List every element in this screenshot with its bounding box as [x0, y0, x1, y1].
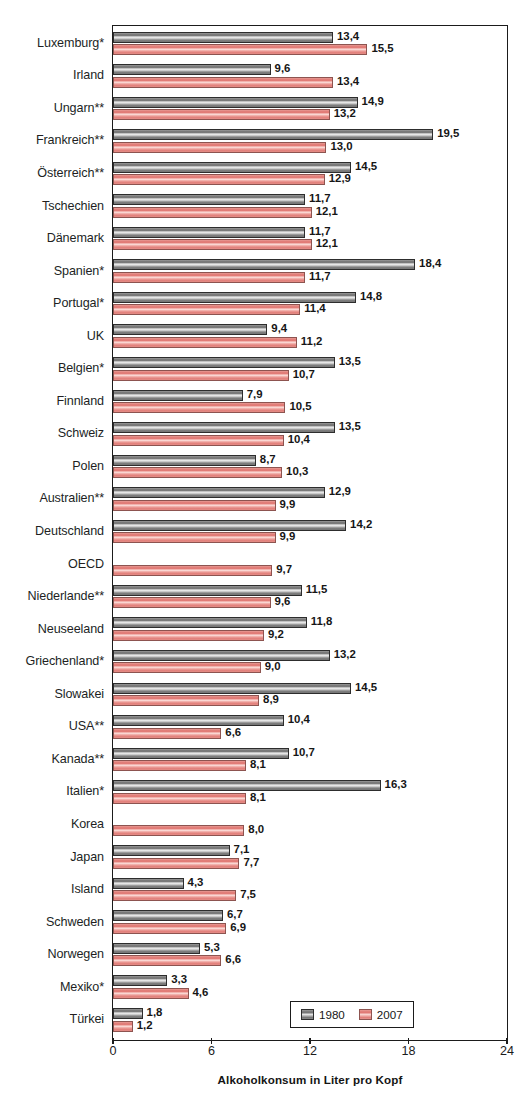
bar-series-1980[interactable]: 13,4	[113, 32, 507, 43]
bar-1980[interactable]	[113, 585, 302, 596]
bar-series-2007[interactable]: 12,1	[113, 207, 507, 218]
bar-2007[interactable]	[113, 77, 333, 88]
bar-series-2007[interactable]: 11,4	[113, 304, 507, 315]
bar-series-1980[interactable]: 8,7	[113, 455, 507, 466]
bar-series-1980[interactable]: 9,4	[113, 324, 507, 335]
bar-series-1980[interactable]: 7,9	[113, 390, 507, 401]
bar-series-2007[interactable]: 10,3	[113, 467, 507, 478]
bar-series-1980[interactable]: 4,3	[113, 878, 507, 889]
bar-2007[interactable]	[113, 597, 271, 608]
bar-series-2007[interactable]: 13,0	[113, 142, 507, 153]
bar-series-1980[interactable]: 11,5	[113, 585, 507, 596]
bar-series-1980[interactable]: 14,2	[113, 520, 507, 531]
bar-1980[interactable]	[113, 292, 356, 303]
bar-2007[interactable]	[113, 272, 305, 283]
bar-series-1980[interactable]: 11,7	[113, 227, 507, 238]
bar-2007[interactable]	[113, 988, 189, 999]
bar-series-2007[interactable]: 10,7	[113, 370, 507, 381]
bar-2007[interactable]	[113, 174, 325, 185]
bar-series-1980[interactable]: 14,8	[113, 292, 507, 303]
bar-2007[interactable]	[113, 532, 276, 543]
bar-2007[interactable]	[113, 500, 276, 511]
bar-1980[interactable]	[113, 357, 335, 368]
bar-1980[interactable]	[113, 259, 415, 270]
bar-series-1980[interactable]: 13,2	[113, 650, 507, 661]
bar-series-1980[interactable]: 13,5	[113, 422, 507, 433]
bar-2007[interactable]	[113, 728, 221, 739]
bar-1980[interactable]	[113, 715, 284, 726]
bar-1980[interactable]	[113, 878, 184, 889]
bar-1980[interactable]	[113, 910, 223, 921]
bar-2007[interactable]	[113, 337, 297, 348]
bar-series-2007[interactable]: 10,5	[113, 402, 507, 413]
bar-1980[interactable]	[113, 194, 305, 205]
bar-1980[interactable]	[113, 227, 305, 238]
bar-1980[interactable]	[113, 64, 271, 75]
bar-1980[interactable]	[113, 975, 167, 986]
bar-2007[interactable]	[113, 44, 367, 55]
bar-1980[interactable]	[113, 324, 267, 335]
bar-series-2007[interactable]: 11,2	[113, 337, 507, 348]
bar-series-1980[interactable]	[113, 813, 507, 824]
bar-series-1980[interactable]: 11,7	[113, 194, 507, 205]
bar-series-1980[interactable]: 19,5	[113, 129, 507, 140]
bar-1980[interactable]	[113, 32, 333, 43]
bar-1980[interactable]	[113, 162, 351, 173]
bar-2007[interactable]	[113, 630, 264, 641]
bar-series-2007[interactable]: 8,0	[113, 825, 507, 836]
bar-2007[interactable]	[113, 207, 312, 218]
bar-2007[interactable]	[113, 923, 226, 934]
bar-series-1980[interactable]: 14,9	[113, 97, 507, 108]
bar-2007[interactable]	[113, 239, 312, 250]
bar-2007[interactable]	[113, 1021, 133, 1032]
bar-2007[interactable]	[113, 793, 246, 804]
bar-1980[interactable]	[113, 455, 256, 466]
bar-1980[interactable]	[113, 748, 289, 759]
bar-2007[interactable]	[113, 695, 259, 706]
bar-series-2007[interactable]: 10,4	[113, 435, 507, 446]
bar-series-2007[interactable]: 12,9	[113, 174, 507, 185]
legend-entry-2007[interactable]: 2007	[359, 1008, 403, 1021]
bar-series-1980[interactable]	[113, 552, 507, 563]
bar-2007[interactable]	[113, 825, 244, 836]
bar-1980[interactable]	[113, 683, 351, 694]
bar-1980[interactable]	[113, 390, 243, 401]
bar-1980[interactable]	[113, 520, 346, 531]
bar-series-2007[interactable]: 11,7	[113, 272, 507, 283]
bar-2007[interactable]	[113, 304, 300, 315]
bar-series-2007[interactable]: 6,6	[113, 728, 507, 739]
bar-series-2007[interactable]: 7,7	[113, 858, 507, 869]
bar-2007[interactable]	[113, 109, 330, 120]
bar-1980[interactable]	[113, 943, 200, 954]
bar-series-2007[interactable]: 13,4	[113, 77, 507, 88]
legend-entry-1980[interactable]: 1980	[301, 1008, 345, 1021]
bar-series-2007[interactable]: 15,5	[113, 44, 507, 55]
bar-series-1980[interactable]: 10,7	[113, 748, 507, 759]
bar-series-1980[interactable]: 14,5	[113, 683, 507, 694]
bar-2007[interactable]	[113, 565, 272, 576]
bar-1980[interactable]	[113, 650, 330, 661]
bar-1980[interactable]	[113, 617, 307, 628]
bar-series-2007[interactable]: 9,0	[113, 662, 507, 673]
bar-series-1980[interactable]: 3,3	[113, 975, 507, 986]
bar-series-1980[interactable]: 6,7	[113, 910, 507, 921]
bar-series-2007[interactable]: 9,2	[113, 630, 507, 641]
bar-2007[interactable]	[113, 890, 236, 901]
bar-2007[interactable]	[113, 858, 239, 869]
bar-series-2007[interactable]: 9,7	[113, 565, 507, 576]
bar-series-2007[interactable]: 12,1	[113, 239, 507, 250]
bar-2007[interactable]	[113, 662, 261, 673]
bar-series-2007[interactable]: 9,9	[113, 500, 507, 511]
bar-2007[interactable]	[113, 370, 289, 381]
bar-1980[interactable]	[113, 97, 358, 108]
bar-series-1980[interactable]: 11,8	[113, 617, 507, 628]
bar-2007[interactable]	[113, 955, 221, 966]
bar-series-2007[interactable]: 13,2	[113, 109, 507, 120]
bar-series-1980[interactable]: 18,4	[113, 259, 507, 270]
bar-1980[interactable]	[113, 422, 335, 433]
bar-series-2007[interactable]: 6,6	[113, 955, 507, 966]
bar-series-2007[interactable]: 9,6	[113, 597, 507, 608]
bar-series-1980[interactable]: 16,3	[113, 780, 507, 791]
bar-series-1980[interactable]: 13,5	[113, 357, 507, 368]
bar-series-1980[interactable]: 12,9	[113, 487, 507, 498]
